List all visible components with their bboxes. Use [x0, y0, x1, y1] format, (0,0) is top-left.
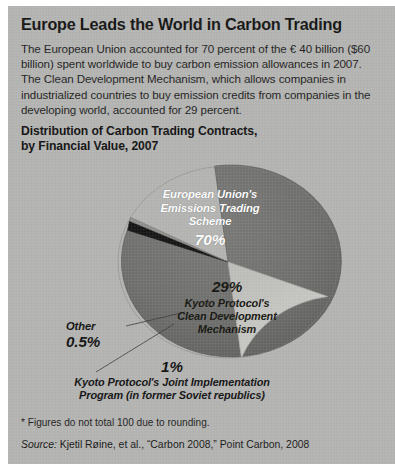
- panel-content: Europe Leads the World in Carbon Trading…: [8, 6, 395, 464]
- slice-label-cdm: 29% Kyoto Protocol's Clean Development M…: [143, 278, 311, 337]
- slice-label-eu-line-1: European Union's: [120, 188, 300, 202]
- chart-title-line-2: by Financial Value, 2007: [21, 139, 361, 154]
- infographic-root: Europe Leads the World in Carbon Trading…: [0, 0, 395, 466]
- slice-label-eu-line-3: Scheme: [120, 215, 300, 229]
- slice-label-eu-line-2: Emissions Trading: [120, 202, 300, 216]
- source-line: Source: Kjetil Røine, et al., “Carbon 20…: [21, 438, 386, 451]
- callout-joint-implementation-value: 1%: [22, 358, 322, 376]
- slice-label-cdm-line-3: Mechanism: [143, 323, 311, 336]
- slice-label-eu: European Union's Emissions Trading Schem…: [120, 188, 300, 249]
- slice-value-eu: 70%: [120, 230, 300, 249]
- chart-title-line-1: Distribution of Carbon Trading Contracts…: [21, 124, 361, 139]
- body-paragraph: The European Union accounted for 70 perc…: [21, 41, 379, 117]
- callout-joint-implementation: 1% Kyoto Protocol's Joint Implementation…: [22, 358, 322, 403]
- slice-value-cdm: 29%: [143, 278, 311, 296]
- callout-other-value: 0.5%: [66, 333, 136, 350]
- slice-label-cdm-line-1: Kyoto Protocol's: [143, 297, 311, 310]
- page-title: Europe Leads the World in Carbon Trading: [21, 16, 373, 34]
- callout-other-name: Other: [66, 320, 136, 333]
- gray-panel: Europe Leads the World in Carbon Trading…: [8, 6, 395, 464]
- chart-title: Distribution of Carbon Trading Contracts…: [21, 124, 361, 153]
- source-label: Source:: [21, 439, 57, 450]
- footnote: * Figures do not total 100 due to roundi…: [21, 416, 381, 429]
- source-text: Kjetil Røine, et al., “Carbon 2008,” Poi…: [60, 439, 310, 450]
- slice-label-cdm-line-2: Clean Development: [143, 310, 311, 323]
- callout-joint-implementation-line-1: Kyoto Protocol's Joint Implementation: [22, 376, 322, 389]
- callout-other: Other 0.5%: [66, 320, 136, 350]
- callout-joint-implementation-line-2: Program (in former Soviet republics): [22, 389, 322, 402]
